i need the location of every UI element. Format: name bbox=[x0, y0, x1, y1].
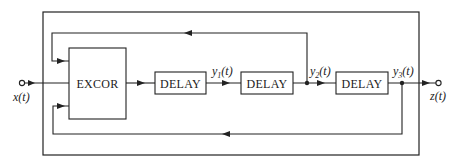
arrow-icon bbox=[137, 80, 145, 86]
feedback-bottom-entry-arrow-icon bbox=[57, 103, 65, 109]
y3-label: y3(t) bbox=[392, 64, 414, 80]
arrow-icon bbox=[317, 80, 325, 86]
output-terminal bbox=[436, 80, 441, 85]
output-label: z(t) bbox=[429, 89, 446, 103]
y1-label: y1(t) bbox=[211, 64, 233, 80]
delay1-label: DELAY bbox=[160, 77, 201, 91]
excor-label: EXCOR bbox=[76, 77, 118, 91]
delay2-label: DELAY bbox=[246, 77, 287, 91]
feedback-top-arrow-icon bbox=[184, 30, 192, 36]
delay3-label: DELAY bbox=[341, 77, 382, 91]
input-label: x(t) bbox=[12, 90, 30, 104]
output-arrow-icon bbox=[422, 80, 430, 86]
input-arrow-icon bbox=[28, 80, 35, 86]
feedback-bottom-arrow-icon bbox=[222, 131, 230, 137]
block-diagram: x(t) EXCOR DELAY y1(t) DELAY y2(t) DELAY… bbox=[0, 0, 457, 166]
input-terminal bbox=[19, 80, 24, 85]
feedback-top-entry-arrow-icon bbox=[57, 58, 65, 64]
arrow-icon bbox=[222, 80, 230, 86]
y2-label: y2(t) bbox=[309, 64, 331, 80]
